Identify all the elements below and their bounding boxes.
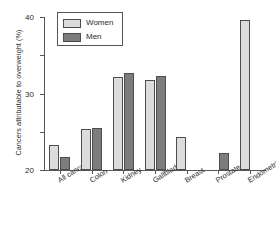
- legend-label-men: Men: [86, 33, 102, 41]
- men-swatch-icon: [63, 33, 81, 42]
- bar: [113, 77, 123, 170]
- bar: [219, 153, 229, 170]
- legend-label-women: Women: [86, 19, 113, 27]
- y-tick-mark: 10: [40, 132, 44, 133]
- bar: [81, 129, 91, 170]
- legend-item-men: Men: [63, 31, 117, 43]
- y-tick-mark: 20: [40, 94, 44, 95]
- chart-legend: Women Men: [57, 12, 123, 46]
- y-axis-line: [44, 17, 45, 170]
- chart-figure: Cancers attributable to overweight (%) 0…: [0, 0, 276, 225]
- bar: [240, 20, 250, 170]
- y-tick-label: 20: [25, 166, 34, 175]
- bar: [49, 145, 59, 170]
- y-tick-label: 30: [25, 89, 34, 98]
- women-swatch-icon: [63, 19, 81, 28]
- y-tick-mark: 40: [40, 17, 44, 18]
- bar: [176, 137, 186, 170]
- legend-item-women: Women: [63, 17, 117, 29]
- bar: [92, 128, 102, 170]
- bar: [156, 76, 166, 170]
- y-tick-mark: 30: [40, 55, 44, 56]
- y-axis-label: Cancers attributable to overweight (%): [14, 13, 23, 173]
- bar: [124, 73, 134, 170]
- y-tick-label: 40: [25, 13, 34, 22]
- y-tick-mark: 0: [40, 170, 44, 171]
- bar: [60, 157, 70, 170]
- bar: [145, 80, 155, 170]
